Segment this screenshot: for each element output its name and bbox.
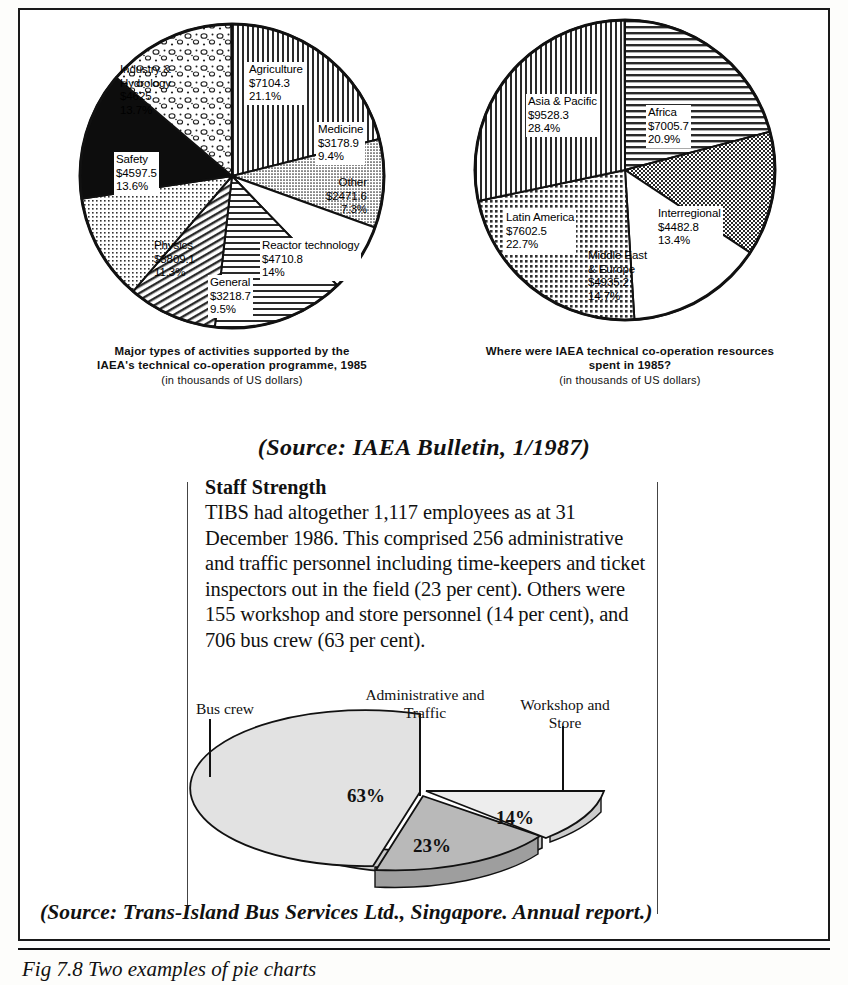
figure-caption: Fig 7.8 Two examples of pie charts — [22, 957, 316, 982]
label-physics: Physics $3809.1 11.3% — [152, 238, 197, 281]
caption-activities: Major types of activities supported by t… — [32, 344, 432, 387]
figure-rule — [18, 948, 830, 950]
staff-strength-block: Staff Strength TIBS had altogether 1,117… — [205, 476, 645, 653]
tibs-pct-bus-crew: 63% — [347, 785, 385, 806]
source-iaea-bulletin: (Source: IAEA Bulletin, 1/1987) — [20, 434, 828, 461]
chart-iaea-regions: Africa $7005.7 20.9% Interregional $4482… — [432, 10, 828, 387]
label-africa: Africa $7005.7 20.9% — [646, 105, 691, 148]
label-general: General $3218.7 9.5% — [208, 275, 253, 318]
figure-page: Agriculture $7104.3 21.1% Medicine $3178… — [0, 0, 848, 985]
label-safety: Safety $4597.5 13.6% — [114, 152, 159, 195]
staff-strength-heading: Staff Strength — [205, 476, 645, 499]
iaea-pie-row: Agriculture $7104.3 21.1% Medicine $3178… — [20, 10, 828, 430]
label-middle-east-europe: Middle East & Europe $4935.2 14.7% — [586, 248, 649, 304]
label-medicine: Medicine $3178.9 9.4% — [316, 122, 365, 165]
staff-strength-body: TIBS had altogether 1,117 employees as a… — [205, 500, 645, 653]
source-tibs-annual-report: (Source: Trans-Island Bus Services Ltd.,… — [40, 900, 653, 925]
chart-iaea-activities: Agriculture $7104.3 21.1% Medicine $3178… — [32, 10, 432, 387]
chart-tibs-staff: 63% 23% 14% Bus crew Administrative and … — [170, 684, 690, 899]
label-reactor-technology: Reactor technology $4710.8 14% — [260, 238, 361, 281]
tibs-slice-bus-crew — [190, 710, 420, 866]
label-interregional: Interregional $4482.8 13.4% — [656, 206, 723, 249]
label-asia-pacific: Asia & Pacific $9528.3 28.4% — [526, 94, 599, 137]
tibs-label-admin-traffic: Administrative and Traffic — [350, 686, 500, 722]
caption-regions: Where were IAEA technical co-operation r… — [432, 344, 828, 387]
tibs-label-bus-crew: Bus crew — [170, 700, 280, 718]
tibs-label-workshop-store: Workshop and Store — [500, 696, 630, 732]
tibs-pct-admin: 23% — [413, 835, 451, 856]
label-agriculture: Agriculture $7104.3 21.1% — [247, 62, 305, 105]
label-industry-hydrology: Industry & Hydrology $4625 13.7% — [118, 62, 173, 118]
label-latin-america: Latin America $7602.5 22.7% — [504, 210, 576, 253]
figure-frame: Agriculture $7104.3 21.1% Medicine $3178… — [18, 8, 830, 941]
tibs-section: Staff Strength TIBS had altogether 1,117… — [20, 472, 828, 892]
label-other: Other $2471.6 7.3% — [324, 175, 369, 218]
tibs-pct-workshop: 14% — [496, 807, 534, 828]
